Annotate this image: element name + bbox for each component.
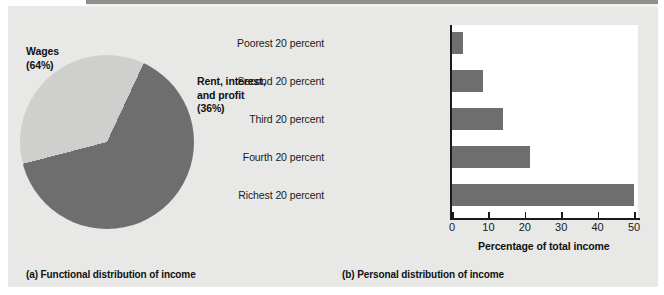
x-axis-title: Percentage of total income (478, 240, 610, 252)
bar-third-20-percent (452, 108, 503, 130)
bar-poorest-20-percent (452, 32, 463, 54)
x-tick-0 (452, 212, 454, 220)
page-edge-right (658, 0, 664, 295)
pie-slices (20, 55, 194, 229)
category-label-second-20-percent: Second 20 percent (238, 75, 324, 87)
category-label-fourth-20-percent: Fourth 20 percent (243, 151, 324, 163)
x-tick-label-10: 10 (482, 221, 494, 233)
bar-second-20-percent (452, 70, 483, 92)
x-tick-label-0: 0 (449, 221, 455, 233)
page-edge-top-left (0, 0, 86, 6)
y-axis-line (450, 25, 452, 220)
pie-chart (20, 55, 200, 235)
x-tick-label-40: 40 (591, 221, 603, 233)
x-axis-line (450, 218, 640, 220)
bar-richest-20-percent (452, 184, 634, 206)
x-tick-40 (598, 212, 600, 220)
bar-fourth-20-percent (452, 146, 530, 168)
category-label-third-20-percent: Third 20 percent (249, 113, 324, 125)
pie-label-wages-name: Wages (26, 45, 59, 59)
x-tick-30 (561, 212, 563, 220)
x-tick-20 (525, 212, 527, 220)
x-tick-10 (488, 212, 490, 220)
pie-label-wages: Wages (64%) (26, 45, 59, 72)
x-tick-label-30: 30 (555, 221, 567, 233)
figure-income-distribution: Wages (64%) Rent, interest, and profit (… (0, 0, 664, 295)
caption-panel-a: (a) Functional distribution of income (26, 269, 196, 280)
x-tick-50 (634, 212, 636, 220)
pie-label-wages-value: (64%) (26, 59, 59, 73)
x-tick-label-50: 50 (628, 221, 640, 233)
page-edge-bottom (0, 287, 664, 295)
pie-label-rent-line2: and profit (197, 89, 266, 103)
x-tick-label-20: 20 (519, 221, 531, 233)
panel-functional-distribution: Wages (64%) Rent, interest, and profit (… (8, 7, 332, 287)
category-label-poorest-20-percent: Poorest 20 percent (237, 37, 324, 49)
category-label-richest-20-percent: Richest 20 percent (238, 189, 324, 201)
panel-personal-distribution: Poorest 20 percentSecond 20 percentThird… (332, 7, 658, 287)
caption-panel-b: (b) Personal distribution of income (342, 269, 504, 280)
page-edge-left (0, 0, 8, 295)
